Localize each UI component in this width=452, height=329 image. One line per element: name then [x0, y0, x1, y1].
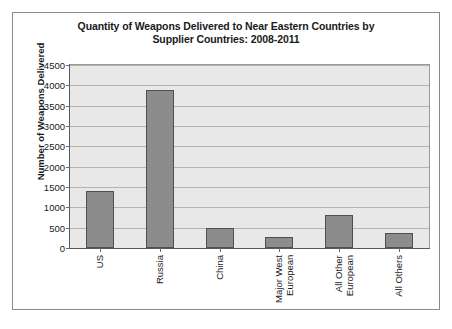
x-tick-mark: [100, 248, 101, 252]
y-axis-title: Number of Weapons Delivered: [35, 22, 46, 202]
x-tick-mark: [220, 248, 221, 252]
x-tick-label: China: [214, 255, 225, 280]
y-tick-label: 4500: [44, 60, 65, 71]
y-tick-mark: [66, 207, 70, 208]
y-tick-label: 0: [60, 243, 65, 254]
x-tick-mark: [160, 248, 161, 252]
x-tick-label: All Others: [393, 255, 404, 297]
y-tick-mark: [66, 167, 70, 168]
gridline: [70, 187, 429, 188]
y-tick-label: 3500: [44, 100, 65, 111]
chart-frame: Quantity of Weapons Delivered to Near Ea…: [12, 12, 440, 310]
chart-title: Quantity of Weapons Delivered to Near Ea…: [13, 20, 439, 46]
x-tick-label: Russia: [154, 255, 165, 284]
y-axis-line: [69, 64, 70, 249]
gridline: [70, 207, 429, 208]
gridline: [70, 85, 429, 86]
y-tick-label: 1500: [44, 182, 65, 193]
y-tick-mark: [66, 126, 70, 127]
y-tick-mark: [66, 106, 70, 107]
chart-title-line-1: Quantity of Weapons Delivered to Near Ea…: [13, 20, 439, 33]
bar: [86, 191, 114, 248]
chart-title-line-2: Supplier Countries: 2008-2011: [13, 33, 439, 46]
x-tick-mark: [399, 248, 400, 252]
gridline: [70, 126, 429, 127]
plot-area: 050010001500200025003000350040004500 USR…: [69, 64, 430, 249]
y-tick-label: 1000: [44, 202, 65, 213]
y-tick-mark: [66, 248, 70, 249]
x-tick-mark: [339, 248, 340, 252]
x-axis-line: [69, 248, 430, 249]
x-tick-mark: [279, 248, 280, 252]
bar: [325, 215, 353, 248]
gridline: [70, 228, 429, 229]
bar: [265, 237, 293, 248]
y-tick-mark: [66, 146, 70, 147]
y-tick-label: 4000: [44, 80, 65, 91]
y-tick-mark: [66, 228, 70, 229]
y-tick-mark: [66, 187, 70, 188]
x-tick-label: All Other European: [333, 255, 355, 296]
y-tick-label: 3000: [44, 121, 65, 132]
x-tick-label: US: [94, 255, 105, 268]
y-tick-label: 500: [49, 222, 65, 233]
y-tick-label: 2500: [44, 141, 65, 152]
y-tick-mark: [66, 85, 70, 86]
bar: [146, 90, 174, 248]
gridline: [70, 65, 429, 66]
bar: [385, 233, 413, 248]
x-tick-label: Major West European: [273, 255, 295, 303]
y-tick-mark: [66, 65, 70, 66]
gridline: [70, 106, 429, 107]
gridline: [70, 167, 429, 168]
gridline: [70, 146, 429, 147]
bar: [206, 228, 234, 248]
y-tick-label: 2000: [44, 161, 65, 172]
